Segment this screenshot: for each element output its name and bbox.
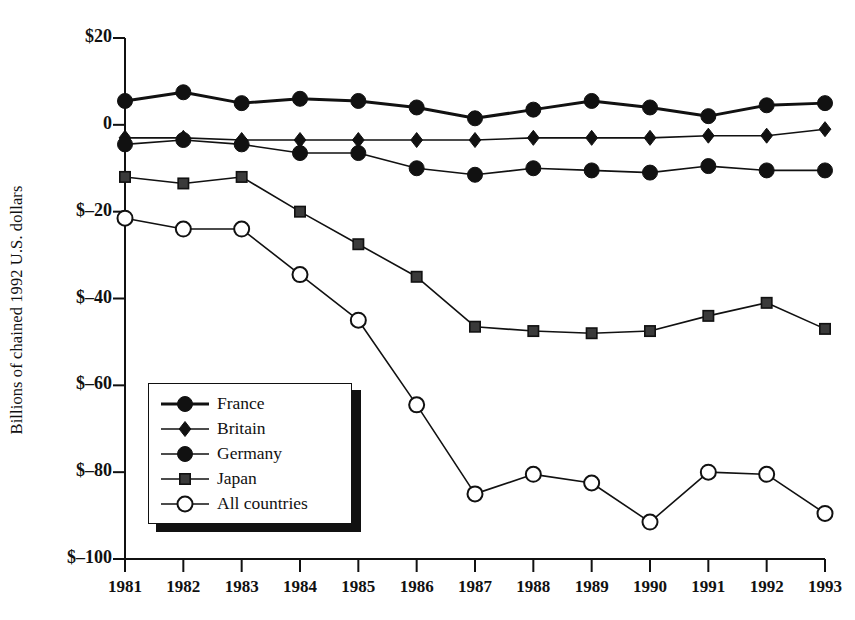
x-tick-label: 1992 [737, 577, 797, 597]
data-point [819, 122, 831, 137]
data-point [528, 326, 538, 336]
legend-marker-icon [159, 418, 211, 440]
y-tick-label: $20 [20, 26, 112, 47]
data-point [176, 222, 191, 237]
data-point [295, 206, 305, 216]
data-point [586, 130, 598, 145]
data-point [409, 161, 424, 176]
y-tick-label: $–40 [20, 287, 112, 308]
data-point [586, 328, 596, 338]
data-point [118, 211, 133, 226]
data-point [527, 130, 539, 145]
data-point [761, 298, 771, 308]
data-point [701, 465, 716, 480]
data-point [293, 267, 308, 282]
data-point [701, 109, 716, 124]
series-japan [120, 172, 830, 339]
x-tick-label: 1986 [387, 577, 447, 597]
data-point [701, 159, 716, 174]
data-point [820, 324, 830, 334]
data-point [293, 91, 308, 106]
legend-item-label: Britain [217, 418, 266, 439]
data-point [759, 98, 774, 113]
data-point [176, 85, 191, 100]
data-point [818, 506, 833, 521]
data-point [234, 96, 249, 111]
chart-legend: FranceBritainGermanyJapanAll countries [148, 383, 352, 524]
data-point [468, 486, 483, 501]
y-tick-label: 0 [20, 113, 112, 134]
x-tick-label: 1981 [95, 577, 155, 597]
y-tick-label: $–100 [20, 547, 112, 568]
data-point [351, 146, 366, 161]
data-point [526, 102, 541, 117]
legend-marker-icon [159, 393, 211, 415]
data-point [526, 161, 541, 176]
legend-item-label: All countries [217, 493, 308, 514]
data-point [584, 163, 599, 178]
data-point [180, 473, 190, 483]
data-point [645, 326, 655, 336]
legend-marker-icon [159, 493, 211, 515]
y-tick-label: $–20 [20, 200, 112, 221]
data-point [643, 100, 658, 115]
x-tick-label: 1983 [212, 577, 272, 597]
data-point [584, 476, 599, 491]
x-tick-label: 1990 [620, 577, 680, 597]
data-point [643, 165, 658, 180]
legend-marker-icon [159, 443, 211, 465]
legend-item-germany: Germany [149, 441, 351, 466]
data-point [178, 446, 193, 461]
y-tick-label: $–80 [20, 460, 112, 481]
data-point [818, 163, 833, 178]
chart-figure: Billions of chained 1992 U.S. dollars $2… [0, 0, 855, 620]
data-point [761, 128, 773, 143]
data-point [118, 93, 133, 108]
x-tick-label: 1984 [270, 577, 330, 597]
data-point [643, 515, 658, 530]
data-point [644, 130, 656, 145]
series-france [118, 85, 833, 126]
data-point [759, 467, 774, 482]
data-point [411, 272, 421, 282]
legend-item-label: Japan [217, 468, 257, 489]
legend-item-japan: Japan [149, 466, 351, 491]
data-point [759, 163, 774, 178]
data-point [584, 93, 599, 108]
data-point [120, 172, 130, 182]
data-point [236, 172, 246, 182]
y-tick-label: $–60 [20, 373, 112, 394]
data-point [702, 128, 714, 143]
data-point [176, 133, 191, 148]
data-point [234, 137, 249, 152]
data-point [411, 133, 423, 148]
x-tick-label: 1989 [562, 577, 622, 597]
data-point [526, 467, 541, 482]
data-point [818, 96, 833, 111]
data-point [703, 311, 713, 321]
data-point [178, 396, 193, 411]
data-point [409, 100, 424, 115]
data-point [351, 93, 366, 108]
data-point [470, 322, 480, 332]
legend-item-france: France [149, 391, 351, 416]
data-point [293, 146, 308, 161]
x-tick-label: 1988 [503, 577, 563, 597]
data-point [234, 222, 249, 237]
chart-plot-area [0, 0, 855, 620]
legend-item-label: Germany [217, 443, 282, 464]
x-tick-label: 1985 [328, 577, 388, 597]
legend-item-label: France [217, 393, 265, 414]
data-point [178, 496, 193, 511]
data-point [468, 167, 483, 182]
data-point [469, 133, 481, 148]
legend-marker-icon [159, 468, 211, 490]
x-tick-label: 1993 [795, 577, 855, 597]
data-point [178, 178, 188, 188]
data-point [351, 313, 366, 328]
legend-item-britain: Britain [149, 416, 351, 441]
x-tick-label: 1987 [445, 577, 505, 597]
data-point [468, 111, 483, 126]
data-point [179, 421, 191, 436]
x-tick-label: 1982 [153, 577, 213, 597]
